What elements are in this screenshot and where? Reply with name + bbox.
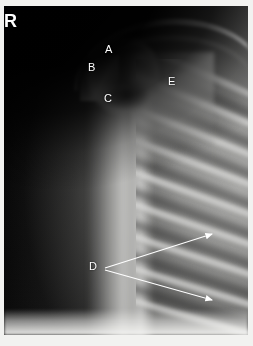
acromion bbox=[80, 55, 119, 101]
annotation-label-a: A bbox=[105, 44, 113, 55]
annotation-label-c: C bbox=[104, 93, 112, 104]
radiograph-image: R A B C E D bbox=[4, 6, 248, 335]
side-marker-right: R bbox=[4, 12, 17, 30]
annotation-label-d: D bbox=[89, 261, 97, 272]
annotation-label-b: B bbox=[88, 62, 96, 73]
film-bottom-band bbox=[4, 309, 248, 335]
radiograph-figure: R A B C E D bbox=[0, 0, 253, 346]
annotation-label-e: E bbox=[168, 76, 176, 87]
